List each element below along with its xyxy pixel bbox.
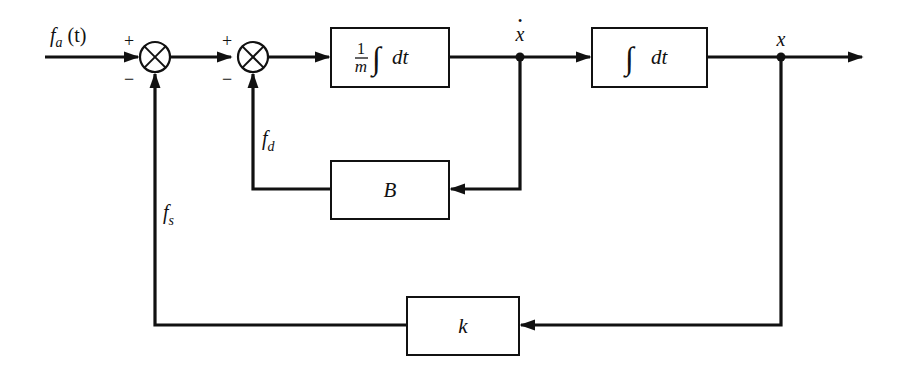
damping-force-label: fd — [262, 127, 276, 154]
position-feedback-line — [521, 57, 781, 325]
summing-junction-2 — [238, 42, 268, 72]
spring-block: k — [407, 297, 519, 355]
block1-denominator: m — [355, 57, 367, 76]
sum2-plus-sign: + — [222, 31, 232, 51]
mass-integrator-block: 1 m ∫ dt — [331, 28, 449, 87]
input-signal-label: fa (t) — [50, 24, 86, 50]
summing-junction-1 — [140, 42, 170, 72]
velocity-feedback-line — [451, 57, 520, 189]
block1-dt: dt — [392, 45, 410, 69]
sum2-minus-sign: − — [222, 69, 232, 89]
block-diagram: fa (t) + − + − 1 m ∫ dt x • ∫ dt x — [0, 0, 900, 377]
sum1-plus-sign: + — [124, 31, 134, 51]
spring-label: k — [458, 314, 468, 338]
damper-block: B — [331, 161, 449, 219]
integrator-block: ∫ dt — [592, 28, 707, 87]
sum1-minus-sign: − — [124, 69, 134, 89]
block1-numerator: 1 — [357, 40, 365, 57]
velocity-dot: • — [518, 14, 522, 28]
damper-label: B — [384, 178, 397, 202]
spring-force-label: fs — [163, 201, 175, 228]
position-label: x — [776, 28, 786, 50]
block2-dt: dt — [651, 45, 669, 69]
